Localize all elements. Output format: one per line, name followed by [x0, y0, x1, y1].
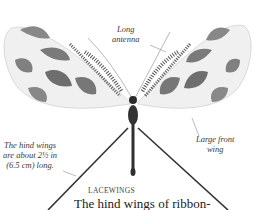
front-wing-label: Large front wing [196, 134, 234, 154]
antenna-label: Long antenna [112, 24, 139, 44]
hind-wings-label: The hind wings are about 2½ in (6.5 cm) … [3, 140, 57, 170]
antenna-leader-line [150, 45, 166, 52]
lacewing-body [128, 96, 138, 176]
section-heading: LACEWINGS [88, 186, 135, 195]
lacewing-illustration-page: Long antenna Large front wing The hind w… [0, 0, 254, 210]
right-front-wing [138, 25, 251, 108]
hind-wing-leader-line [63, 171, 76, 176]
body-text: The hind wings of ribbon- [74, 196, 210, 210]
